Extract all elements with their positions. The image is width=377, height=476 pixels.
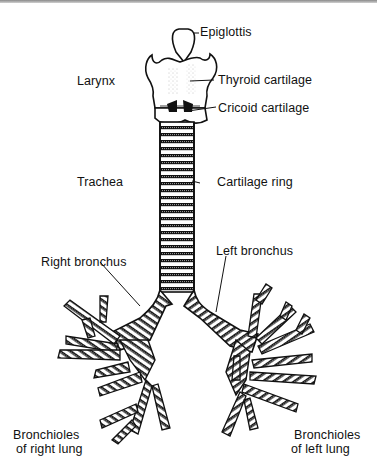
left-bronchioles-shape: [222, 284, 316, 436]
label-right-bronchus: Right bronchus: [41, 255, 126, 269]
label-epiglottis: Epiglottis: [200, 25, 252, 39]
label-bronchioles-right: Bronchioles of right lung: [13, 428, 83, 456]
left-bronchus-shape: [184, 290, 258, 395]
label-bronchioles-right-line1: Bronchioles: [13, 428, 83, 442]
trachea-shape: [160, 122, 194, 292]
label-cartilage-ring: Cartilage ring: [217, 175, 293, 189]
label-bronchioles-left-line2: of left lung: [291, 442, 360, 456]
epiglottis-shape: [172, 29, 194, 62]
thyroid-cartilage-shape: [146, 54, 217, 108]
label-cricoid-cartilage: Cricoid cartilage: [218, 101, 309, 115]
label-bronchioles-right-line2: of right lung: [13, 442, 83, 456]
label-thyroid-cartilage: Thyroid cartilage: [218, 73, 312, 87]
label-trachea: Trachea: [77, 175, 123, 189]
label-bronchioles-left-line1: Bronchioles: [291, 428, 360, 442]
leader-left-bronchus: [216, 256, 226, 312]
anatomy-diagram: Epiglottis Thyroid cartilage Cricoid car…: [0, 0, 377, 476]
label-left-bronchus: Left bronchus: [216, 244, 293, 258]
label-larynx: Larynx: [77, 74, 115, 88]
label-bronchioles-left: Bronchioles of left lung: [291, 428, 360, 456]
airway-illustration: [0, 0, 377, 476]
